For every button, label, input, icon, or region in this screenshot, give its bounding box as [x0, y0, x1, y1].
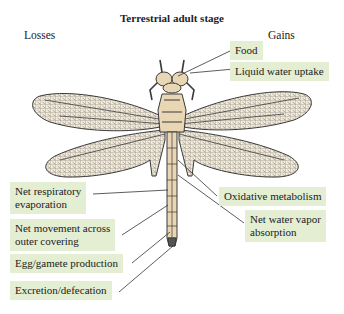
- abdomen: [167, 132, 177, 246]
- thorax: [158, 94, 186, 132]
- head: [156, 72, 188, 93]
- forewing-left: [33, 93, 165, 130]
- label-net-water-vapor-absorption: Net water vapor absorption: [245, 210, 326, 242]
- label-egg-gamete-production: Egg/gamete production: [10, 254, 123, 273]
- hindwing-left: [46, 130, 165, 177]
- label-liquid-water-uptake: Liquid water uptake: [230, 62, 329, 81]
- hindwing-right: [179, 130, 298, 177]
- forewing-right: [179, 92, 311, 130]
- label-net-respiratory-evaporation: Net respiratory evaporation: [10, 182, 86, 214]
- label-excretion-defecation: Excretion/defecation: [10, 281, 112, 300]
- label-oxidative-metabolism: Oxidative metabolism: [219, 187, 326, 206]
- label-food: Food: [230, 41, 263, 60]
- label-net-movement-outer-covering: Net movement across outer covering: [10, 219, 115, 251]
